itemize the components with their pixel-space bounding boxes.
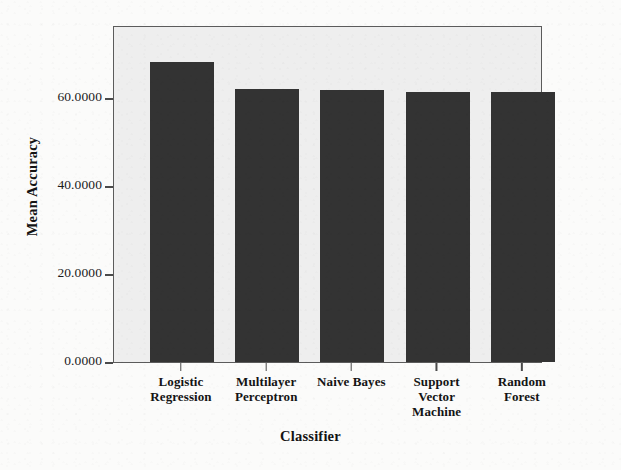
- x-axis-tick-mark: [521, 363, 523, 371]
- y-axis-tick-label: 20.0000: [57, 265, 102, 281]
- bar: [491, 92, 555, 362]
- x-axis-tick-mark: [265, 363, 267, 371]
- x-axis-title: Classifier: [0, 427, 621, 445]
- bar: [150, 62, 214, 362]
- x-axis-tick: Logistic Regression: [150, 363, 211, 404]
- x-axis-tick-label: Logistic Regression: [150, 374, 211, 404]
- plot-area: [113, 26, 542, 363]
- y-axis-tick-mark: [105, 274, 113, 276]
- bar: [320, 90, 384, 362]
- x-axis-tick-mark: [351, 363, 353, 371]
- y-axis-tick-mark: [105, 186, 113, 188]
- x-axis-tick: Random Forest: [498, 363, 546, 404]
- x-axis-tick-label: Support Vector Machine: [412, 374, 461, 419]
- x-axis: Logistic RegressionMultilayer Perceptron…: [0, 363, 621, 463]
- x-axis-tick: Multilayer Perceptron: [235, 363, 298, 404]
- bar-chart-figure: Mean Accuracy 0.000020.000040.000060.000…: [0, 0, 621, 470]
- x-axis-tick: Support Vector Machine: [412, 363, 461, 419]
- x-axis-tick-label: Random Forest: [498, 374, 546, 404]
- bars-layer: [114, 27, 541, 362]
- bar: [235, 89, 299, 362]
- x-axis-tick: Naive Bayes: [317, 363, 386, 389]
- bar: [406, 92, 470, 362]
- x-axis-tick-label: Multilayer Perceptron: [235, 374, 298, 404]
- x-axis-title-label: Classifier: [280, 428, 341, 444]
- y-axis-tick-label: 60.0000: [57, 89, 102, 105]
- y-axis-tick-label: 40.0000: [57, 177, 102, 193]
- x-axis-tick-mark: [436, 363, 438, 371]
- x-axis-tick-label: Naive Bayes: [317, 374, 386, 389]
- y-axis-tick-mark: [105, 98, 113, 100]
- x-axis-tick-mark: [180, 363, 182, 371]
